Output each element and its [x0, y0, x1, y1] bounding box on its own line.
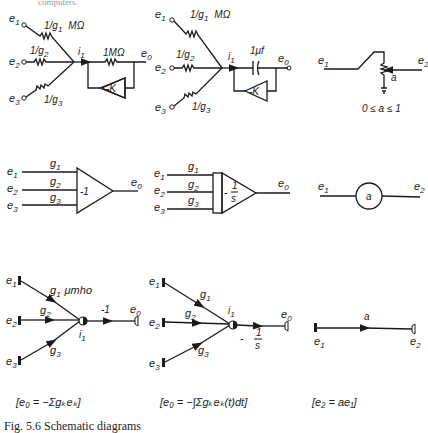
- svg-text:e0: e0: [278, 177, 289, 192]
- svg-text:1/g2: 1/g2: [176, 49, 195, 63]
- header-fragment: computers.: [38, 0, 78, 7]
- integrator-block: e1 e2 e3 g1 g2 g3 - 1 s e0: [154, 160, 290, 216]
- svg-text:e0: e0: [131, 176, 142, 191]
- svg-text:g1: g1: [50, 157, 61, 172]
- ground-icon: [381, 88, 387, 93]
- svg-text:e1: e1: [7, 165, 18, 180]
- summer-block: e1 e2 e3 g1 g2 g3 -1 e0: [7, 157, 142, 214]
- terminal-e1: [22, 23, 26, 27]
- terminal-e3: [22, 96, 26, 100]
- svg-text:g3: g3: [188, 194, 199, 209]
- svg-text:e2: e2: [418, 54, 428, 69]
- svg-text:e1: e1: [314, 335, 325, 350]
- svg-text:1μf: 1μf: [250, 45, 265, 56]
- feedback-resistor: [86, 59, 146, 65]
- svg-text:e2: e2: [154, 184, 165, 199]
- svg-text:e2: e2: [6, 314, 17, 329]
- svg-text:i1: i1: [78, 46, 85, 60]
- potentiometer-circuit: e1 e2 a 0 ≤ a ≤ 1: [318, 52, 428, 114]
- svg-text:1MΩ: 1MΩ: [103, 47, 125, 58]
- resistor-g1: [26, 26, 74, 62]
- svg-text:e2: e2: [410, 335, 421, 350]
- svg-text:i1: i1: [228, 305, 235, 319]
- svg-text:-1: -1: [101, 304, 110, 315]
- equation-coefficient: [e₂ = ae₁]: [311, 396, 358, 408]
- svg-text:g2: g2: [185, 307, 196, 322]
- svg-text:e1: e1: [6, 274, 17, 289]
- figure-caption: Fig. 5.6 Schematic diagrams: [4, 419, 141, 433]
- resistor-g2: [26, 59, 74, 65]
- svg-text:e2: e2: [149, 316, 160, 331]
- svg-text:g2: g2: [40, 304, 51, 319]
- integrator-circuit: e1 e2 e3 1/g1MΩ 1/g2 1/g3 i1 1μf e0 -K: [155, 8, 291, 116]
- svg-text:a: a: [364, 311, 370, 322]
- terminal-e2: [22, 60, 26, 64]
- svg-text:e2: e2: [414, 180, 425, 195]
- svg-text:g3: g3: [198, 344, 209, 359]
- svg-text:e1: e1: [149, 275, 160, 290]
- svg-text:1/g2: 1/g2: [30, 45, 49, 59]
- coefficient-flow-graph: a e1 e2: [314, 311, 421, 350]
- svg-text:e0: e0: [141, 47, 152, 62]
- source-node-e2: [18, 316, 21, 325]
- svg-text:-K: -K: [106, 83, 117, 94]
- svg-text:a: a: [391, 72, 397, 83]
- summing-amplifier-circuit: e1 e2 e3 1/g1MΩ 1/g2 1/g3 i1 1MΩ e0 -K: [9, 12, 152, 108]
- svg-text:e2: e2: [9, 55, 20, 70]
- equation-integrator: [e₀ = −∫Σgₖeₖ(t)dt]: [159, 396, 248, 409]
- sink-node-e2: [412, 324, 415, 334]
- svg-text:-: -: [224, 187, 228, 198]
- svg-text:g1μmho: g1μmho: [50, 284, 92, 299]
- source-node-e1: [314, 323, 317, 332]
- svg-text:-1: -1: [80, 186, 89, 197]
- resistor-g3: [26, 62, 74, 97]
- svg-text:e1: e1: [318, 180, 329, 195]
- svg-text:e3: e3: [149, 357, 160, 372]
- svg-text:0 ≤ a ≤ 1: 0 ≤ a ≤ 1: [362, 103, 401, 114]
- svg-text:g1: g1: [200, 288, 211, 303]
- equation-summer: [e₀ = −Σgₖeₖ]: [15, 396, 82, 408]
- svg-text:g2: g2: [188, 178, 199, 193]
- svg-text:-: -: [240, 333, 244, 344]
- svg-text:1/g1MΩ: 1/g1MΩ: [190, 9, 231, 23]
- svg-text:e0: e0: [278, 52, 289, 67]
- svg-text:e3: e3: [155, 101, 166, 116]
- svg-text:1: 1: [232, 180, 238, 191]
- svg-text:i1: i1: [228, 51, 235, 65]
- svg-text:g1: g1: [188, 160, 199, 175]
- coefficient-block: e1 e2 a: [318, 180, 425, 209]
- source-node-e3: [18, 356, 21, 365]
- svg-text:e2: e2: [7, 182, 18, 197]
- svg-text:1/g3: 1/g3: [192, 101, 211, 115]
- svg-text:1/g3: 1/g3: [44, 94, 63, 108]
- svg-text:-K: -K: [249, 86, 260, 97]
- svg-text:g3: g3: [50, 191, 61, 206]
- svg-text:a: a: [366, 191, 372, 202]
- svg-text:e1: e1: [318, 54, 329, 69]
- svg-text:e0: e0: [281, 308, 292, 323]
- figure-canvas: computers. e1 e2 e3 1/g1MΩ 1/g2 1/g3 i1 …: [0, 0, 428, 433]
- svg-text:e3: e3: [9, 92, 20, 107]
- svg-text:1: 1: [256, 327, 262, 338]
- svg-text:e1: e1: [154, 167, 165, 182]
- svg-text:e3: e3: [7, 199, 18, 214]
- svg-text:e0: e0: [130, 303, 141, 318]
- svg-text:e3: e3: [6, 355, 17, 370]
- svg-text:g2: g2: [50, 175, 61, 190]
- summer-flow-graph: e1 e2 e3 g1μmho g2 g3 i1 -1 e0: [6, 274, 141, 370]
- svg-text:e3: e3: [154, 201, 165, 216]
- integrator-flow-graph: e1 e2 e3 g1 g2 g3 i1 - 1 s e0: [149, 275, 292, 372]
- svg-text:s: s: [255, 340, 260, 351]
- svg-text:i1: i1: [79, 329, 86, 343]
- svg-text:e1: e1: [9, 12, 20, 27]
- svg-text:e1: e1: [155, 8, 166, 23]
- svg-text:e2: e2: [155, 61, 166, 76]
- potentiometer-resistor: [324, 52, 387, 88]
- svg-text:s: s: [231, 193, 236, 204]
- integrator-input-bar: [213, 173, 222, 213]
- svg-text:g3: g3: [50, 344, 61, 359]
